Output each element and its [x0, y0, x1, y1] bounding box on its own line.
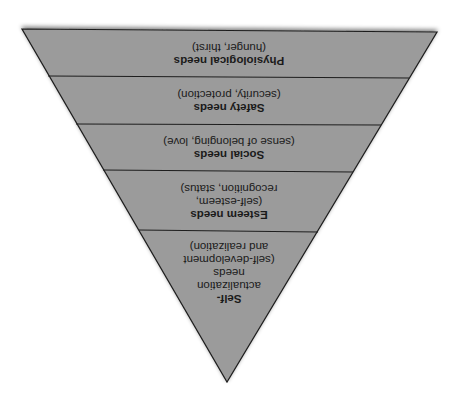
level-esteem: Esteem needs (self-esteem, recognition, … — [180, 182, 277, 221]
level-title: needs — [183, 266, 274, 279]
level-subtitle: (self-esteem, — [180, 195, 277, 208]
level-title: Safety needs — [177, 101, 280, 114]
level-subtitle: (sense of belonging, love) — [163, 135, 295, 148]
level-self-actualization: Self- actualization needs (self-developm… — [183, 240, 274, 305]
level-subtitle: (hunger, thirst) — [174, 41, 285, 54]
level-social: Social needs (sense of belonging, love) — [163, 135, 295, 161]
level-title: Self- — [183, 292, 274, 305]
level-subtitle: and realization) — [183, 240, 274, 253]
level-title: Esteem needs — [180, 208, 277, 221]
level-subtitle: recognition, status) — [180, 182, 277, 195]
level-subtitle: (security, protection) — [177, 88, 280, 101]
level-safety: Safety needs (security, protection) — [177, 88, 280, 114]
level-title: Social needs — [163, 148, 295, 161]
level-subtitle: (self-development — [183, 253, 274, 266]
level-title: actualization — [183, 279, 274, 292]
level-physiological: Physiological needs (hunger, thirst) — [174, 41, 285, 67]
level-title: Physiological needs — [174, 54, 285, 67]
